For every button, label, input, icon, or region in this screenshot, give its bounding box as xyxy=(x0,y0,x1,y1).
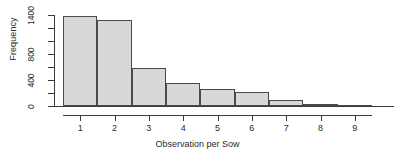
histogram-bar xyxy=(166,83,200,106)
x-tick-mark xyxy=(286,115,287,121)
x-tick-label: 4 xyxy=(173,123,193,134)
histogram-bar xyxy=(235,92,269,106)
x-tick-mark xyxy=(252,115,253,121)
x-tick-mark xyxy=(183,115,184,121)
x-tick-mark xyxy=(80,115,81,121)
x-tick-label: 3 xyxy=(139,123,159,134)
x-tick-mark xyxy=(218,115,219,121)
x-tick-label: 6 xyxy=(242,123,262,134)
x-tick-label: 2 xyxy=(105,123,125,134)
x-tick-label: 9 xyxy=(345,123,365,134)
histogram-figure: Frequency 14008004000 123456789 Observat… xyxy=(0,0,395,163)
x-tick-label: 8 xyxy=(311,123,331,134)
x-tick-label: 7 xyxy=(276,123,296,134)
baseline xyxy=(55,106,394,107)
x-tick-mark xyxy=(115,115,116,121)
histogram-bar xyxy=(97,20,131,106)
histogram-bar xyxy=(132,68,166,106)
x-axis-title: Observation per Sow xyxy=(0,139,395,149)
x-tick-mark xyxy=(149,115,150,121)
x-tick-label: 5 xyxy=(208,123,228,134)
x-tick-label: 1 xyxy=(70,123,90,134)
histogram-bar xyxy=(200,89,234,106)
histogram-bar xyxy=(63,16,97,106)
x-tick-mark xyxy=(355,115,356,121)
x-tick-mark xyxy=(321,115,322,121)
